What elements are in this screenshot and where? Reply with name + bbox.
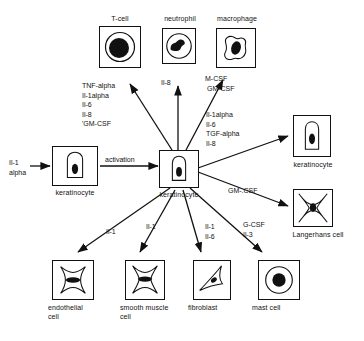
keratinocyte-icon <box>160 151 198 187</box>
neutrophil-icon <box>163 29 195 63</box>
cell-box-smooth-muscle-cell <box>125 260 165 300</box>
cell-box-mast-cell <box>258 260 300 300</box>
cytokines-mast-cell: G-CSF Il-3 <box>243 220 265 239</box>
label-il1-alpha-input: Il-1 alpha <box>9 158 26 177</box>
cell-box-macrophage <box>216 28 256 68</box>
cytokine-network-diagram: T-cell neutrophil macrophage keratinocyt… <box>0 0 364 341</box>
cytokines-macrophage: M-CSF GM-CSF <box>205 74 235 93</box>
arrow-keratinocyte-to-tcell <box>130 84 172 150</box>
label-fibroblast: fibroblast <box>188 303 254 312</box>
cytokines-smooth-muscle: Il-1 <box>146 222 156 232</box>
label-endothelial-cell: endothelial cell <box>48 303 114 321</box>
keratinocyte-icon <box>53 147 97 185</box>
label-keratinocyte-right: keratinocyte <box>282 160 344 169</box>
cell-box-keratinocyte-center <box>159 150 199 188</box>
cell-box-fibroblast <box>193 260 231 300</box>
cytokines-neutrophil: Il-8 <box>161 78 171 88</box>
t-cell-icon <box>100 27 140 67</box>
label-langerhans-cell: Langerhans cell <box>282 230 354 239</box>
label-smooth-muscle-cell: smooth muscle cell <box>120 303 198 321</box>
arrow-keratinocyte-to-fibroblast <box>183 190 201 252</box>
cell-box-endothelial-cell <box>52 260 94 300</box>
label-mast-cell: mast cell <box>252 303 318 312</box>
cell-box-keratinocyte-right <box>293 115 331 157</box>
fibroblast-icon <box>194 261 230 299</box>
cytokines-keratinocyte-right: Il-1alpha Il-6 TGF-alpha Il-8 <box>206 110 239 148</box>
mast-cell-icon <box>259 261 299 299</box>
cytokines-fibroblast: Il-1 Il-6 <box>205 222 215 241</box>
label-t-cell: T-cell <box>95 14 145 23</box>
label-neutrophil: neutrophil <box>152 14 208 23</box>
label-keratinocyte-center: keratinocyte <box>148 190 210 199</box>
smooth-muscle-cell-icon <box>126 261 164 299</box>
cell-box-langerhans-cell <box>293 189 333 227</box>
cell-box-t-cell <box>99 26 141 68</box>
cell-box-keratinocyte-left <box>52 146 98 186</box>
langerhans-cell-icon <box>294 190 332 226</box>
macrophage-icon <box>217 29 255 67</box>
endothelial-cell-icon <box>53 261 93 299</box>
cell-box-neutrophil <box>162 28 196 64</box>
arrow-keratinocyte-to-smooth-muscle <box>140 190 175 252</box>
label-activation: activation <box>105 155 135 165</box>
cytokines-t-cell: TNF-alpha Il-1alpha Il-6 Il-8 'GM-CSF <box>82 81 115 129</box>
label-keratinocyte-left: keratinocyte <box>42 188 108 197</box>
keratinocyte-icon <box>294 116 330 156</box>
cytokines-endothelial: Il-1 <box>106 227 116 237</box>
label-macrophage: macrophage <box>206 14 268 23</box>
cytokines-langerhans: GM-.CSF <box>228 186 258 196</box>
